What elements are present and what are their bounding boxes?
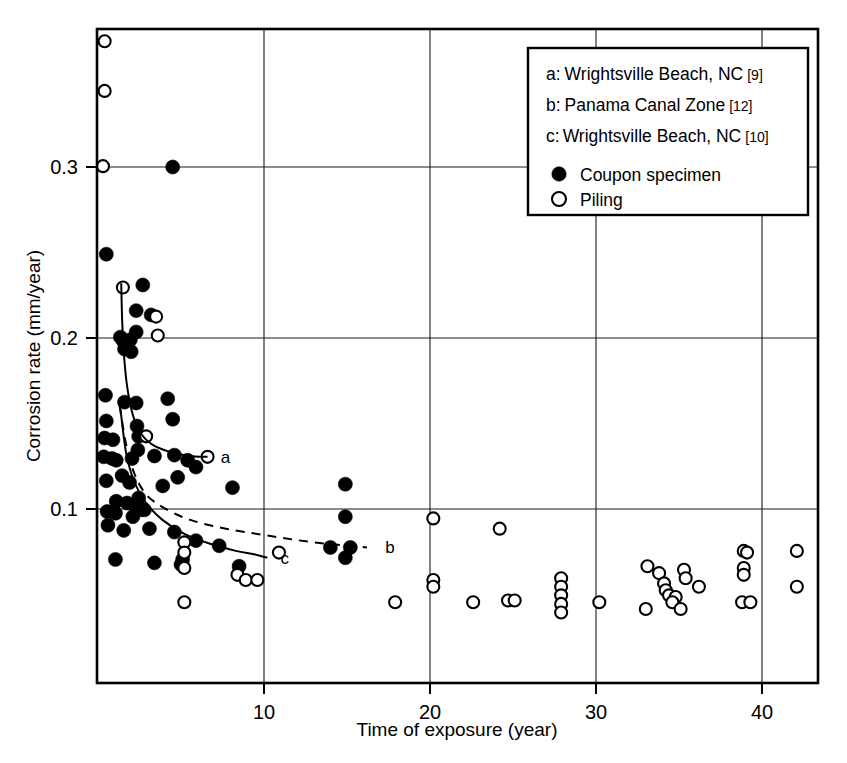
data-point-coupon [109,453,123,467]
legend-label-piling: Piling [580,190,623,210]
data-point-piling [178,596,190,608]
data-point-coupon [147,449,161,463]
legend: a:Wrightsville Beach, NC[9] b:Panama Can… [528,48,808,215]
y-axis-title: Corrosion rate (mm/year) [23,250,44,462]
data-point-piling [99,85,111,97]
data-point-piling [744,596,756,608]
data-point-coupon [101,518,115,532]
data-point-coupon [106,433,120,447]
data-point-coupon [142,522,156,536]
legend-ref-c: c:Wrightsville Beach, NC[10] [546,126,769,146]
curve-label-c: c [281,549,290,568]
data-point-coupon [99,474,113,488]
y-axis-ticks: 0.10.20.3 [50,156,97,520]
data-point-piling [791,545,803,557]
data-point-piling [240,574,252,586]
legend-label-coupon: Coupon specimen [580,165,721,185]
data-point-coupon [338,477,352,491]
data-point-piling [641,560,653,572]
legend-ref-b: b:Panama Canal Zone[12] [546,95,753,115]
curve-labels: abc [221,448,395,568]
x-axis-ticks: 10203040 [253,683,773,723]
legend-open-circle-icon [552,192,566,206]
curve-label-a: a [221,448,231,467]
data-point-coupon [99,414,113,428]
data-point-coupon [147,556,161,570]
data-point-piling [593,596,605,608]
scatter-plot-canvas: abc 10203040 0.10.20.3 Time of exposure … [0,0,847,763]
legend-ref-a: a:Wrightsville Beach, NC[9] [546,64,763,84]
corrosion-rate-figure: abc 10203040 0.10.20.3 Time of exposure … [0,0,847,763]
data-point-piling [680,572,692,584]
curve-b [120,406,367,548]
data-point-piling [467,596,479,608]
data-point-coupon [171,470,185,484]
data-point-piling [791,581,803,593]
data-point-piling [675,603,687,615]
data-point-coupon [338,510,352,524]
data-point-piling [640,603,652,615]
data-point-piling [389,596,401,608]
data-point-coupon [323,540,337,554]
x-tick-label-10: 10 [253,701,275,723]
data-point-piling [494,523,506,535]
data-point-piling [738,569,750,581]
data-point-coupon [126,510,140,524]
data-point-coupon [136,278,150,292]
data-point-piling [427,512,439,524]
data-point-piling [150,311,162,323]
x-tick-label-30: 30 [585,701,607,723]
curve-label-b: b [385,538,394,557]
data-point-piling [693,581,705,593]
data-point-coupon [124,345,138,359]
data-point-piling [251,574,263,586]
data-point-coupon [338,551,352,565]
data-point-coupon [117,523,131,537]
data-point-coupon [156,479,170,493]
data-point-coupon [108,506,122,520]
data-point-piling [97,160,109,172]
data-point-coupon [108,552,122,566]
data-point-piling [555,606,567,618]
data-point-coupon [225,481,239,495]
fitted-curves [120,283,367,557]
legend-filled-circle-icon [552,167,566,181]
data-point-piling [152,329,164,341]
data-point-piling [178,547,190,559]
data-point-coupon [166,412,180,426]
data-point-piling [99,35,111,47]
data-point-coupon [99,247,113,261]
x-tick-label-40: 40 [751,701,773,723]
data-point-coupon [166,160,180,174]
data-point-piling [427,581,439,593]
x-axis-title: Time of exposure (year) [357,719,558,740]
data-point-piling [741,547,753,559]
data-point-coupon [161,392,175,406]
series-coupon-specimen [97,160,358,573]
data-point-piling [509,594,521,606]
y-tick-label-0.3: 0.3 [50,156,78,178]
data-point-coupon [98,388,112,402]
y-tick-label-0.1: 0.1 [50,498,78,520]
data-point-coupon [129,304,143,318]
y-tick-label-0.2: 0.2 [50,327,78,349]
data-point-piling [178,562,190,574]
data-point-piling [117,282,129,294]
data-point-coupon [189,460,203,474]
